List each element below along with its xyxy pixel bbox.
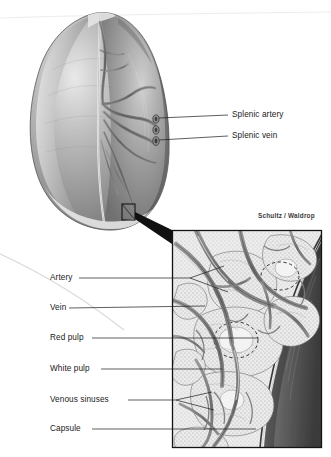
label-artery: Artery xyxy=(50,274,72,282)
anatomy-illustration xyxy=(0,0,331,457)
label-white-pulp: White pulp xyxy=(50,365,90,373)
artist-credit: Schultz / Waldrop xyxy=(258,212,315,219)
label-splenic-vein: Splenic vein xyxy=(232,132,277,140)
inset-panel xyxy=(171,230,322,448)
vessel-cut-ends xyxy=(153,115,159,145)
label-venous-sinuses: Venous sinuses xyxy=(50,396,109,404)
label-splenic-artery: Splenic artery xyxy=(232,111,283,119)
label-vein: Vein xyxy=(50,304,66,312)
label-red-pulp: Red pulp xyxy=(50,334,84,342)
label-capsule: Capsule xyxy=(50,425,81,433)
spleen-figure: Splenic artery Splenic vein Artery Vein … xyxy=(0,0,331,457)
